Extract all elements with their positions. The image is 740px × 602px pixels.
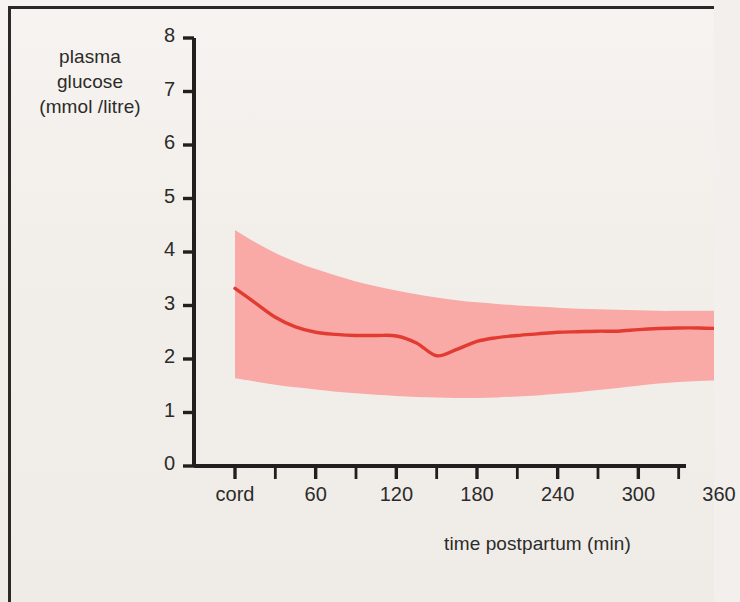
- y-tick-label: 0: [149, 452, 175, 475]
- x-tick-label: 120: [356, 483, 436, 506]
- y-tick-label: 3: [149, 292, 175, 315]
- y-tick-label: 1: [149, 399, 175, 422]
- y-axis-title-line-2: glucose: [10, 69, 170, 94]
- range-band: [235, 230, 714, 398]
- x-axis-title: time postpartum (min): [444, 531, 631, 556]
- y-axis-title-line-3: (mmol /litre): [10, 94, 170, 119]
- y-tick-label: 4: [149, 238, 175, 261]
- y-axis-title-line-1: plasma: [10, 44, 170, 69]
- x-tick-label: 60: [276, 483, 356, 506]
- y-axis-title: plasma glucose (mmol /litre): [10, 44, 170, 119]
- y-tick-label: 5: [149, 185, 175, 208]
- y-tick-label: 2: [149, 345, 175, 368]
- x-tick-label: cord: [195, 483, 275, 506]
- y-tick-label: 7: [149, 78, 175, 101]
- x-tick-label: 300: [598, 483, 678, 506]
- x-tick-label: 240: [518, 483, 598, 506]
- y-tick-label: 8: [149, 24, 175, 47]
- x-tick-label: 360: [679, 483, 740, 506]
- x-tick-label: 180: [437, 483, 517, 506]
- y-tick-label: 6: [149, 131, 175, 154]
